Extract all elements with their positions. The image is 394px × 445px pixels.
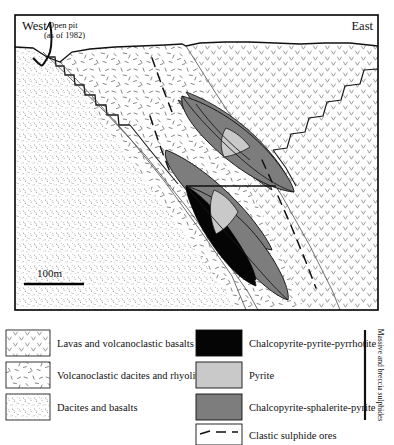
legend-group-label: Massive and breccia sulphides — [376, 329, 385, 422]
legend-ore-units: Chalcopyrite-pyrite-pyrrhotite Pyrite Ch… — [196, 330, 376, 445]
legend-label-dacites: Dacites and basalts — [57, 402, 137, 413]
legend-label-lavas: Lavas and volcanoclastic basalts — [57, 338, 194, 349]
legend-swatch-lavas — [6, 330, 50, 356]
legend-swatch-cpy-sph-py — [196, 394, 242, 420]
annotation-open-pit-sub: (as of 1982) — [44, 30, 85, 40]
legend-swatch-clastic — [196, 424, 242, 445]
legend-swatch-cpy-py-po — [196, 330, 242, 356]
figure-root: West East Open pit (as of 1982) 100m Lav… — [0, 0, 394, 445]
annotation-open-pit-title: Open pit — [48, 20, 78, 30]
legend-swatch-dacites — [6, 394, 50, 420]
legend-swatch-pyrite — [196, 362, 242, 388]
legend-label-clastic: Clastic sulphide ores — [249, 430, 337, 441]
cross-section-panel — [15, 15, 378, 310]
legend-label-cpy-sph-py: Chalcopyrite-sphalerite-pyrite — [249, 402, 376, 413]
label-east: East — [351, 19, 373, 33]
legend-rock-units: Lavas and volcanoclastic basalts Volcano… — [6, 330, 207, 420]
legend-swatch-volcanoclastic-dacites — [6, 362, 50, 388]
legend-label-cpy-py-po: Chalcopyrite-pyrite-pyrrhotite — [249, 338, 376, 349]
legend-label-pyrite: Pyrite — [249, 370, 274, 381]
legend-label-volcanoclastic-dacites: Volcanoclastic dacites and rhyolites — [57, 370, 207, 381]
cross-section-svg: West East Open pit (as of 1982) 100m Lav… — [0, 0, 394, 445]
scale-label: 100m — [37, 267, 63, 279]
